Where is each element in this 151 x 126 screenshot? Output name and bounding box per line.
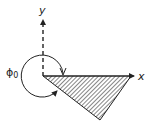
- y-axis-label: y: [38, 4, 46, 17]
- hatched-wedge: [43, 76, 131, 120]
- coordinate-diagram: y x ϕ0: [0, 0, 151, 126]
- angle-symbol: ϕ: [6, 66, 13, 79]
- angle-subscript: 0: [13, 71, 18, 80]
- angle-label: ϕ0: [6, 66, 18, 80]
- x-axis-label: x: [137, 70, 145, 83]
